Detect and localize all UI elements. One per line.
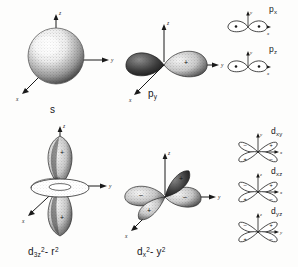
dxy-small-lobe-ll (239, 152, 258, 162)
dz2-orbital-label: d3z2- r2 (28, 246, 59, 258)
s-orbital-diagram: z y x (2, 6, 132, 116)
dxz-sign-ur: + (269, 182, 272, 188)
dx2y2-orbital-label: dx2- y2 (137, 246, 166, 258)
svg-text:x: x (279, 190, 283, 195)
svg-text:z: z (166, 20, 170, 26)
py-lobe-negative (126, 53, 164, 76)
svg-text:x: x (15, 96, 19, 102)
dyz-small-diagram: z y – + + – (236, 210, 290, 254)
dz2-sign-plus-lower: + (60, 214, 64, 221)
pz-small-lobe-left (228, 61, 248, 72)
svg-text:x: x (21, 218, 25, 224)
dx2y2-sign-minus-left: – (139, 191, 143, 198)
svg-text:z: z (259, 172, 262, 177)
dxz-sign-ll: + (243, 196, 246, 202)
dxy-sign-ur: + (269, 142, 272, 148)
svg-text:z: z (58, 10, 62, 16)
s-orbital-sphere (28, 28, 84, 84)
dx2y2-sign-minus-right: – (183, 193, 187, 200)
svg-text:x: x (124, 233, 128, 239)
px-small-lobe-left (228, 21, 248, 32)
dz2-orbital-diagram: z y x + + (4, 122, 129, 252)
dxz-small-lobe-ur (258, 182, 277, 192)
dyz-sign-ur: + (269, 222, 272, 228)
svg-text:y: y (249, 10, 253, 15)
dxy-small-label: dxy (271, 126, 282, 137)
py-sign-plus: + (184, 59, 188, 66)
dyz-sign-ll: + (243, 236, 246, 242)
svg-text:z: z (167, 150, 171, 156)
dxy-small-lobe-ul (239, 142, 258, 152)
pz-small-label: pz (269, 44, 277, 55)
svg-text:z: z (259, 212, 262, 217)
dxz-small-lobe-ll (239, 192, 258, 202)
svg-text:y: y (249, 50, 253, 55)
pz-small-lobe-right (248, 61, 267, 72)
svg-text:y: y (110, 57, 114, 63)
dyz-small-lobe-ll (239, 232, 258, 242)
dz2-sign-plus-upper: + (60, 149, 64, 156)
svg-text:z: z (62, 123, 66, 129)
px-small-label: px (269, 4, 277, 15)
svg-text:x: x (266, 71, 270, 76)
svg-text:x: x (128, 97, 132, 103)
dyz-small-lobe-ur (258, 222, 277, 232)
dxz-small-lobe-lr (258, 192, 277, 202)
svg-text:y: y (279, 230, 283, 235)
dyz-small-label: dyz (271, 206, 282, 217)
dxy-sign-ll: + (243, 156, 246, 162)
orbital-figure: z y x s z y (0, 0, 298, 267)
svg-text:x: x (266, 31, 270, 36)
dz2-torus (31, 178, 89, 197)
s-orbital-label: s (50, 104, 55, 115)
svg-text:y: y (217, 194, 221, 200)
dxz-small-lobe-ul (239, 182, 258, 192)
dx2y2-orbital-diagram: z y x – – + (113, 145, 233, 255)
dyz-small-lobe-ul (239, 222, 258, 232)
dx2y2-sign-plus-lower: + (147, 207, 151, 214)
dxz-small-label: dxz (271, 166, 282, 177)
svg-text:y: y (108, 183, 112, 189)
py-orbital-label: py (148, 88, 157, 100)
py-lobe-positive: + (164, 51, 207, 77)
dyz-small-lobe-lr (258, 232, 277, 242)
svg-text:y: y (259, 132, 263, 137)
px-small-lobe-right (248, 21, 267, 32)
dxy-small-lobe-lr (258, 152, 277, 162)
svg-text:x: x (279, 150, 283, 155)
dx2y2-sign-plus-upper: + (179, 175, 183, 182)
py-axis-z: z (162, 20, 170, 62)
dxy-small-lobe-ur (258, 142, 277, 152)
